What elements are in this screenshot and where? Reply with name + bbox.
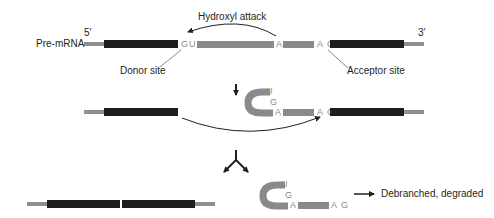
donor-site-leader [160, 50, 181, 67]
connectors [0, 0, 494, 218]
acceptor-site-leader [328, 50, 348, 68]
splicing-diagram: Pre-mRNA 5′ 3′ G U A A G Hydroxyl attack… [0, 0, 494, 218]
split-arrow-left [224, 160, 236, 172]
hydroxyl-attack-arrow [188, 24, 276, 36]
excised-lariat-loop [263, 185, 288, 206]
exon-ligation-arrow [182, 117, 320, 131]
split-arrow-right [236, 160, 248, 172]
lariat-loop [248, 92, 273, 113]
